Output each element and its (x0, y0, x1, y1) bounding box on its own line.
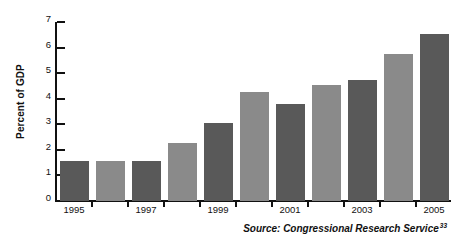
y-tick-label: 2 (31, 142, 51, 152)
y-tick: 3 (55, 123, 65, 125)
bar (60, 161, 89, 201)
bar (240, 92, 269, 201)
y-tick-mark (57, 47, 65, 49)
y-tick: 5 (55, 72, 65, 74)
y-tick-label: 7 (31, 14, 51, 24)
y-tick-label: 0 (31, 193, 51, 203)
bar (132, 161, 161, 201)
y-tick-mark (57, 123, 65, 125)
bar (384, 54, 413, 201)
x-tick-label: 1999 (188, 205, 248, 215)
source-note: Source: Congressional Research Service33 (243, 222, 447, 234)
source-note-text: Source: Congressional Research Service (243, 223, 439, 234)
y-tick-label: 3 (31, 116, 51, 126)
y-tick-mark (57, 149, 65, 151)
source-note-superscript: 33 (440, 222, 447, 229)
x-tick-label: 2005 (404, 205, 459, 215)
plot-area: 01234567 199519971999200120032005 (55, 22, 451, 201)
bar (168, 143, 197, 201)
x-tick-label: 2003 (332, 205, 392, 215)
bar (348, 80, 377, 201)
y-tick: 7 (55, 21, 65, 23)
x-tick-label: 1997 (116, 205, 176, 215)
y-tick: 2 (55, 149, 65, 151)
y-tick-mark (57, 72, 65, 74)
bar (312, 85, 341, 201)
y-tick-label: 4 (31, 91, 51, 101)
y-tick-mark (57, 21, 65, 23)
y-tick-label: 6 (31, 40, 51, 50)
y-axis-title: Percent of GDP (15, 42, 26, 162)
bar-chart: Percent of GDP 01234567 1995199719992001… (0, 0, 459, 243)
y-tick: 4 (55, 98, 65, 100)
x-tick-label: 1995 (44, 205, 104, 215)
bar (420, 34, 449, 201)
y-tick-label: 1 (31, 167, 51, 177)
bar (204, 123, 233, 201)
y-tick-label: 5 (31, 65, 51, 75)
bar (96, 161, 125, 201)
y-tick: 6 (55, 47, 65, 49)
x-tick-label: 2001 (260, 205, 320, 215)
bar (276, 104, 305, 201)
y-tick-mark (57, 98, 65, 100)
